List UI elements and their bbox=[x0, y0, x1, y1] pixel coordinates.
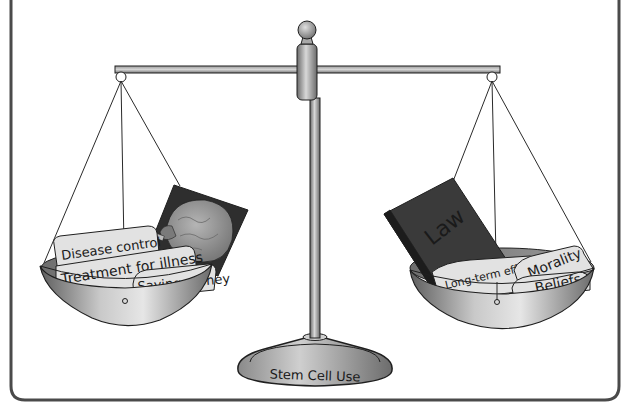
scale-base: Stem Cell Use bbox=[238, 334, 392, 387]
balance-scale-diagram: Stem Cell Use Disease control Trea bbox=[0, 0, 630, 413]
base-label: Stem Cell Use bbox=[269, 366, 360, 384]
left-hook bbox=[116, 72, 126, 82]
scale-pole bbox=[310, 98, 320, 338]
scale-center-column bbox=[297, 21, 317, 100]
right-pan: Law Long-term effects Morality Beliefs bbox=[384, 81, 594, 329]
right-hook bbox=[487, 72, 497, 82]
left-pan: Disease control Treatment for illness Sa… bbox=[40, 81, 248, 326]
